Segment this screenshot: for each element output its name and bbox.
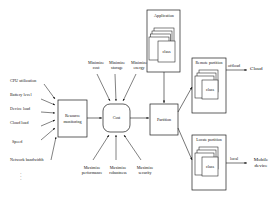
local-partition-label: Locate partition — [192, 138, 226, 143]
input-arrows — [41, 84, 56, 160]
resource-monitoring-line2: monitoring — [63, 119, 81, 124]
input-label-cpu-utilization: CPU utilization — [10, 78, 36, 83]
objective-minimize-storage-line2: storage — [111, 65, 123, 70]
objective-maximize-security: Maximize security — [131, 162, 159, 178]
cost-label: Cost — [103, 104, 130, 132]
objective-minimize-energy-line2: energy — [133, 65, 144, 70]
cloud-label: Cloud — [250, 66, 262, 72]
partition-label: Partition — [150, 104, 178, 135]
local-class-label: class — [202, 164, 218, 169]
mobile-device-line2: device — [254, 163, 267, 170]
diagram-canvas: CPU utilization Battery level Device loa… — [0, 0, 278, 206]
objective-minimize-storage: Minimize storage — [105, 57, 129, 73]
objective-minimize-cost-line2: cost — [93, 65, 100, 70]
resource-monitoring-label: Resource monitoring — [58, 100, 87, 137]
objective-maximize-robustness-line2: robustness — [109, 170, 126, 175]
bottom-objective-arrows — [93, 135, 141, 160]
mobile-device-label: Mobile device — [247, 152, 275, 174]
objective-maximize-robustness: Maximize robustness — [103, 162, 133, 178]
input-label-battery-level: Battery level — [10, 92, 32, 97]
edge-partition-to-remote — [178, 87, 192, 112]
input-label-device-load: Device load — [10, 106, 30, 111]
local-class-stack — [195, 147, 218, 176]
input-label-speed: Speed — [12, 139, 22, 144]
offload-edge-label: offload — [228, 63, 240, 68]
application-class-stack — [149, 28, 175, 62]
local-edge-label: local — [230, 156, 238, 161]
input-ellipsis: ··· — [20, 172, 22, 182]
objective-minimize-energy: Minimize energy — [127, 57, 151, 73]
remote-class-stack — [195, 70, 218, 99]
input-label-network-bandwidth: Network bandwidth — [10, 157, 43, 162]
objective-maximize-security-line2: security — [139, 170, 152, 175]
application-class-label: class — [158, 49, 175, 54]
remote-partition-label: Remote partition — [192, 61, 226, 66]
application-label: Application — [151, 13, 177, 18]
remote-class-label: class — [202, 87, 218, 92]
edge-partition-to-local — [178, 128, 192, 160]
input-label-cloud-load: Cloud load — [10, 120, 29, 125]
objective-maximize-performance-line2: performance — [82, 170, 103, 175]
top-objective-arrows — [97, 74, 136, 101]
